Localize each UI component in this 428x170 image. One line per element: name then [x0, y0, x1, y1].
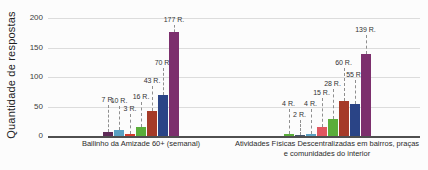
bar-wrap: 15 R.: [317, 127, 327, 136]
bar-group-1: 7 R.10 R.3 R.16 R.43 R.70 R.177 R.: [48, 14, 234, 136]
bar-wrap: 16 R.: [136, 127, 146, 136]
bar: [103, 132, 113, 136]
bar-group-2: 4 R.2 R.4 R.15 R.28 R.60 R.55 R.139 R.: [234, 14, 420, 136]
leader-line: [333, 89, 334, 119]
leader-line: [344, 68, 345, 101]
bar-chart: Quantidade de respostas 7 R.10 R.3 R.16 …: [0, 0, 428, 170]
leader-line: [130, 114, 131, 134]
y-tick-label: 200: [13, 13, 43, 22]
bar-wrap: 177 R.: [169, 32, 179, 136]
x-category-label-1: Bailinho da Amizade 60+ (semanal): [48, 139, 234, 159]
leader-line: [355, 80, 356, 104]
bar-wrap: 55 R.: [350, 104, 360, 136]
bar: [328, 119, 338, 136]
x-category-label-2: Atividades Físicas Descentralizadas em b…: [234, 139, 420, 159]
bar-wrap: 139 R.: [361, 54, 371, 136]
leader-line: [366, 35, 367, 54]
bar: [317, 127, 327, 136]
y-tick-label: 150: [13, 43, 43, 52]
bar-value-label: 177 R.: [164, 16, 185, 23]
y-tick-label: 0: [13, 131, 43, 140]
bar-groups: 7 R.10 R.3 R.16 R.43 R.70 R.177 R. 4 R.2…: [48, 14, 420, 136]
bar: [339, 101, 349, 136]
leader-line: [119, 106, 120, 130]
leader-line: [108, 105, 109, 132]
bar: [306, 134, 316, 136]
bar-value-label: 60 R.: [335, 59, 352, 66]
bar-wrap: 43 R.: [147, 111, 157, 136]
bar-wrap: 4 R.: [306, 134, 316, 136]
bar-value-label: 4 R.: [304, 100, 317, 107]
bar-value-label: 2 R.: [293, 111, 306, 118]
bar-wrap: 60 R.: [339, 101, 349, 136]
bar: [158, 95, 168, 136]
bar-value-label: 139 R.: [355, 26, 376, 33]
bar: [147, 111, 157, 136]
y-tick-label: 100: [13, 72, 43, 81]
y-tick-label: 50: [13, 102, 43, 111]
bar: [169, 32, 179, 136]
x-axis-labels: Bailinho da Amizade 60+ (semanal) Ativid…: [48, 139, 420, 159]
bar-wrap: 28 R.: [328, 119, 338, 136]
bar: [114, 130, 124, 136]
leader-line: [311, 109, 312, 134]
bar-wrap: 70 R.: [158, 95, 168, 136]
bar-wrap: 3 R.: [125, 134, 135, 136]
plot-area: 7 R.10 R.3 R.16 R.43 R.70 R.177 R. 4 R.2…: [48, 14, 420, 138]
bar-value-label: 4 R.: [282, 100, 295, 107]
bar-value-label: 3 R.: [124, 105, 137, 112]
bar: [295, 135, 305, 136]
leader-line: [300, 120, 301, 135]
bar: [361, 54, 371, 136]
leader-line: [152, 86, 153, 111]
bar-wrap: 4 R.: [284, 134, 294, 136]
bar-wrap: 7 R.: [103, 132, 113, 136]
bar: [350, 104, 360, 136]
leader-line: [289, 109, 290, 134]
bar-value-label: 43 R.: [144, 77, 161, 84]
bar-value-label: 10 R.: [111, 97, 128, 104]
bar: [284, 134, 294, 136]
bar: [125, 134, 135, 136]
bar-wrap: 10 R.: [114, 130, 124, 136]
leader-line: [141, 102, 142, 127]
bar: [136, 127, 146, 136]
leader-line: [322, 98, 323, 127]
bar-value-label: 15 R.: [313, 89, 330, 96]
bar-value-label: 16 R.: [133, 93, 150, 100]
bar-value-label: 28 R.: [324, 80, 341, 87]
leader-line: [163, 68, 164, 95]
leader-line: [174, 25, 175, 32]
bar-wrap: 2 R.: [295, 135, 305, 136]
